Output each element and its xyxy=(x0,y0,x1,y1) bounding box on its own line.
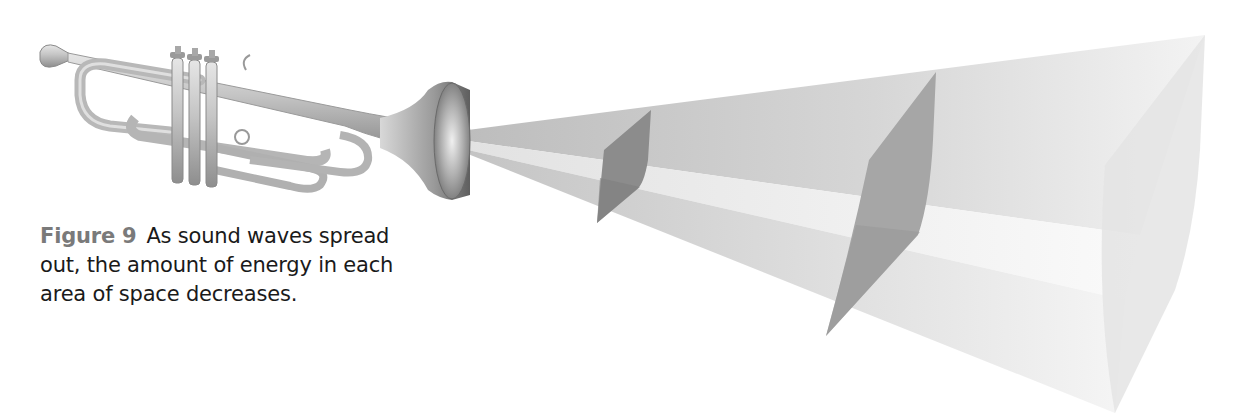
trumpet-finger-hook xyxy=(244,55,250,70)
figure-label: Figure 9 xyxy=(40,224,136,248)
trumpet-mouthpiece xyxy=(40,45,70,67)
trumpet-icon xyxy=(40,45,470,200)
figure-caption: Figure 9As sound waves spread out, the a… xyxy=(40,222,430,309)
trumpet-ring xyxy=(235,130,249,144)
sound-cone xyxy=(468,35,1205,413)
sound-wave-illustration xyxy=(0,0,1237,415)
trumpet-valves xyxy=(170,46,219,187)
trumpet-bell-rim xyxy=(434,83,470,199)
